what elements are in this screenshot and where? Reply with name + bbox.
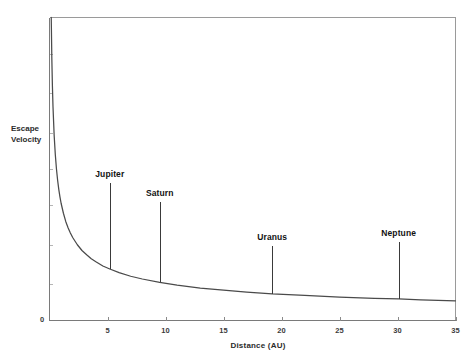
- escape-velocity-chart: 5101520253035 JupiterSaturnUranusNeptune…: [0, 0, 469, 359]
- planet-label-neptune: Neptune: [381, 228, 416, 238]
- x-axis-tick-label: 35: [451, 326, 459, 335]
- y-axis-title-line-1: Escape: [11, 124, 40, 133]
- y-axis-title-line-2: Velocity: [11, 135, 42, 144]
- x-axis-tick-label: 15: [219, 326, 227, 335]
- x-axis-title: Distance (AU): [230, 341, 285, 350]
- planet-label-jupiter: Jupiter: [95, 169, 125, 179]
- x-axis-ticks: [109, 317, 457, 321]
- x-axis-tick-label: 30: [393, 326, 401, 335]
- planet-label-group: JupiterSaturnUranusNeptune: [95, 169, 416, 243]
- chart-plot-area: 5101520253035 JupiterSaturnUranusNeptune…: [0, 0, 469, 359]
- escape-velocity-curve: [51, 18, 455, 301]
- y-axis-zero-label: 0: [40, 315, 44, 324]
- planet-label-uranus: Uranus: [257, 232, 287, 242]
- x-axis-tick-label: 20: [277, 326, 285, 335]
- planet-label-saturn: Saturn: [146, 188, 174, 198]
- x-axis-tick-labels: 5101520253035: [105, 326, 459, 335]
- x-axis-tick-label: 10: [161, 326, 169, 335]
- x-axis-tick-label: 25: [335, 326, 343, 335]
- x-axis-tick-label: 5: [105, 326, 109, 335]
